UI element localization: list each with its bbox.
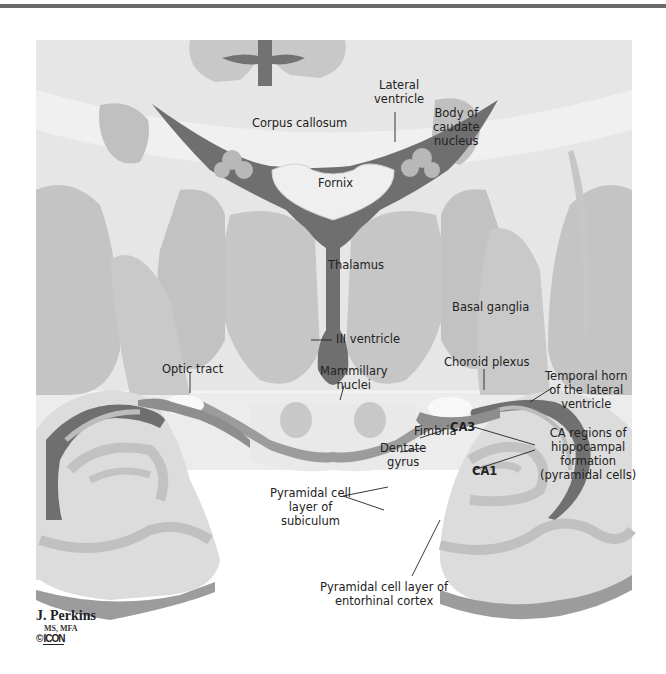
- label-line: ventricle: [545, 397, 627, 411]
- label-corpus-callosum: Corpus callosum: [252, 116, 347, 130]
- label-temporal-horn: Temporal horn of the lateral ventricle: [545, 369, 627, 411]
- label-line: hippocampal: [540, 440, 636, 454]
- label-fornix: Fornix: [318, 176, 353, 190]
- label-lateral-ventricle: Lateral ventricle: [374, 78, 424, 106]
- label-ca1: CA1: [472, 464, 497, 478]
- label-line: layer of: [270, 500, 351, 514]
- label-dentate-gyrus: Dentate gyrus: [380, 441, 426, 469]
- brain-coronal-section-illustration: [0, 0, 666, 674]
- artist-name: J. Perkins: [36, 608, 96, 624]
- label-line: Temporal horn: [545, 369, 627, 383]
- label-pyramidal-cell-layer-entorhinal: Pyramidal cell layer of entorhinal corte…: [320, 580, 448, 608]
- label-choroid-plexus: Choroid plexus: [444, 355, 529, 369]
- label-line: nuclei: [320, 378, 388, 392]
- label-basal-ganglia: Basal ganglia: [452, 300, 529, 314]
- artist-credit: J. Perkins MS, MFA ©ICON: [36, 608, 96, 644]
- label-line: (pyramidal cells): [540, 468, 636, 482]
- logo-text: ICON: [43, 633, 64, 645]
- label-line: gyrus: [380, 455, 426, 469]
- label-line: of the lateral: [545, 383, 627, 397]
- label-line: subiculum: [270, 514, 351, 528]
- label-iii-ventricle: III ventricle: [336, 332, 400, 346]
- label-line: Pyramidal cell: [270, 486, 351, 500]
- label-thalamus: Thalamus: [328, 258, 384, 272]
- artist-degrees: MS, MFA: [44, 624, 96, 633]
- label-line: Body of: [433, 106, 480, 120]
- label-line: Pyramidal cell layer of: [320, 580, 448, 594]
- label-line: CA regions of: [540, 426, 636, 440]
- label-ca3: CA3: [450, 420, 475, 434]
- label-body-of-caudate-nucleus: Body of caudate nucleus: [433, 106, 480, 148]
- label-line: caudate: [433, 120, 480, 134]
- label-line: entorhinal cortex: [320, 594, 448, 608]
- label-optic-tract: Optic tract: [162, 362, 223, 376]
- label-line: nucleus: [433, 134, 480, 148]
- label-mammillary-nuclei: Mammillary nuclei: [320, 364, 388, 392]
- label-pyramidal-cell-layer-subiculum: Pyramidal cell layer of subiculum: [270, 486, 351, 528]
- label-line: ventricle: [374, 92, 424, 106]
- label-ca-regions: CA regions of hippocampal formation (pyr…: [540, 426, 636, 482]
- label-line: formation: [540, 454, 636, 468]
- label-line: Dentate: [380, 441, 426, 455]
- icon-learning-systems-logo: ©ICON: [36, 633, 96, 644]
- label-line: Lateral: [374, 78, 424, 92]
- label-line: Mammillary: [320, 364, 388, 378]
